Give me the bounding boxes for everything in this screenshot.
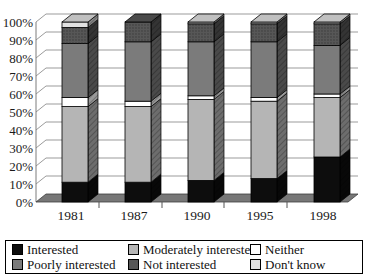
legend-item-moderately-interested: Moderately interested: [128, 243, 250, 256]
bar-segment: [188, 42, 214, 96]
legend-label: Don't know: [265, 258, 325, 271]
bar-segment: [62, 182, 88, 202]
bar-segment: [62, 44, 88, 98]
bar-segment: [188, 180, 214, 202]
bar-segment: [125, 107, 151, 183]
legend-item-neither: Neither: [250, 243, 356, 256]
bar-segment: [188, 96, 214, 100]
bar-segment: [251, 101, 277, 178]
bar-segment-texture: [314, 24, 340, 46]
legend-swatch-moderately-interested: [128, 244, 139, 255]
legend-item-interested: Interested: [12, 243, 128, 256]
gridline-stub: [36, 176, 46, 184]
y-tick-label: 90%: [9, 33, 33, 48]
bar-segment: [125, 101, 151, 106]
y-tick-label: 0%: [16, 195, 34, 210]
gridline-stub: [36, 68, 46, 76]
legend-item-dont-know: Don't know: [250, 258, 356, 271]
bar-segment: [251, 179, 277, 202]
legend-label: Neither: [265, 243, 304, 256]
gridline-stub: [36, 140, 46, 148]
gridline-stub: [36, 158, 46, 166]
bar-segment-texture: [188, 24, 214, 42]
gridline-stub: [36, 32, 46, 40]
bar-side-hatch: [277, 14, 287, 202]
legend-item-poorly-interested: Poorly interested: [12, 258, 128, 271]
y-tick-label: 30%: [9, 141, 33, 156]
bar-segment: [314, 98, 340, 157]
bar-segment: [251, 98, 277, 102]
gridline-stub: [36, 86, 46, 94]
x-category-label: 1998: [310, 208, 337, 223]
bar-segment: [125, 182, 151, 202]
gridline-stub: [36, 122, 46, 130]
y-tick-label: 100%: [3, 15, 34, 30]
bar-segment: [314, 45, 340, 94]
x-category-label: 1990: [184, 208, 211, 223]
bar-side-hatch: [151, 14, 161, 202]
bar-segment: [251, 42, 277, 98]
gridline-stub: [36, 50, 46, 58]
bar-segment-texture: [251, 24, 277, 42]
legend-swatch-not-interested: [128, 259, 139, 270]
chart-screenshot: 198119871990199519980%10%20%30%40%50%60%…: [0, 0, 369, 277]
y-tick-label: 50%: [9, 105, 33, 120]
legend-label: Moderately interested: [143, 243, 257, 256]
y-tick-label: 80%: [9, 51, 33, 66]
bar-segment: [62, 22, 88, 27]
y-tick-label: 70%: [9, 69, 33, 84]
y-tick-label: 10%: [9, 177, 33, 192]
gridline-stub: [36, 14, 46, 22]
gridline-stub: [36, 104, 46, 112]
bar-segment: [188, 99, 214, 180]
bar-segment-texture: [62, 27, 88, 43]
bar-segment-texture: [125, 22, 151, 42]
y-tick-label: 60%: [9, 87, 33, 102]
stacked-bar-chart-svg: 198119871990199519980%10%20%30%40%50%60%…: [0, 0, 369, 238]
x-category-label: 1981: [58, 208, 85, 223]
bar-segment: [62, 98, 88, 107]
bar-segment: [314, 94, 340, 98]
legend-swatch-neither: [250, 244, 261, 255]
bar-side-hatch: [88, 14, 98, 202]
x-category-label: 1995: [247, 208, 274, 223]
legend-swatch-dont-know: [250, 259, 261, 270]
legend-item-not-interested: Not interested: [128, 258, 250, 271]
y-tick-label: 20%: [9, 159, 33, 174]
legend-label: Not interested: [143, 258, 216, 271]
y-tick-label: 40%: [9, 123, 33, 138]
legend: Interested Moderately interested Neither…: [5, 240, 363, 274]
legend-swatch-interested: [12, 244, 23, 255]
plot-area: 198119871990199519980%10%20%30%40%50%60%…: [0, 0, 369, 238]
legend-label: Poorly interested: [27, 258, 115, 271]
bar-segment: [62, 107, 88, 183]
bar-segment: [125, 42, 151, 101]
bar-segment: [314, 157, 340, 202]
legend-label: Interested: [27, 243, 78, 256]
legend-swatch-poorly-interested: [12, 259, 23, 270]
bar-side-hatch: [214, 14, 224, 202]
bar-side-hatch: [340, 14, 350, 202]
x-category-label: 1987: [121, 208, 148, 223]
